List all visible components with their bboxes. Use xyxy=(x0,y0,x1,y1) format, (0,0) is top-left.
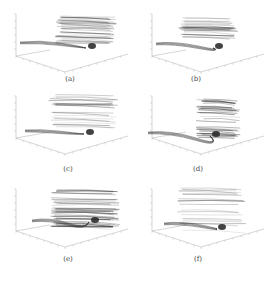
panel-d: (d) xyxy=(136,94,272,188)
trajectory-plot-d xyxy=(136,94,272,188)
panel-label-d: (d) xyxy=(183,165,213,173)
panel-e: (e) xyxy=(0,187,136,281)
panel-label-b: (b) xyxy=(181,75,211,83)
trajectory-plot-c xyxy=(0,94,136,188)
trajectory-plot-e xyxy=(0,187,136,281)
panel-a: (a) xyxy=(0,0,136,94)
panel-label-e: (e) xyxy=(53,255,83,263)
panel-f: (f) xyxy=(136,187,272,281)
trajectory-plot-f xyxy=(136,187,272,281)
panel-b: (b) xyxy=(136,0,272,94)
panel-c: (c) xyxy=(0,94,136,188)
panel-label-a: (a) xyxy=(55,75,85,83)
panel-label-f: (f) xyxy=(183,255,213,263)
panel-label-c: (c) xyxy=(53,165,83,173)
